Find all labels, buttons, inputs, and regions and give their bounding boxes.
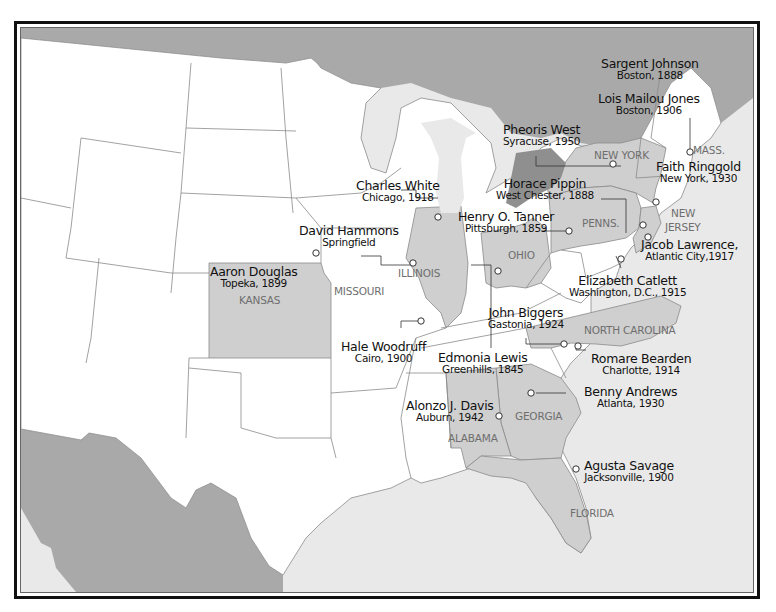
map-frame: NEW YORK MASS. PENNS. NEW JERSEY OHIO IL… <box>20 27 754 593</box>
state-label-new-jersey-2: JERSEY <box>665 222 701 233</box>
artist-birthplace: Syracuse, 1950 <box>503 136 580 147</box>
city-dot-syracuse <box>610 161 616 167</box>
artist-label-sargent-johnson: Sargent Johnson Boston, 1888 <box>601 57 699 81</box>
city-dot-west-chester <box>640 222 646 228</box>
state-label-ohio: OHIO <box>508 250 535 261</box>
state-label-florida: FLORIDA <box>570 508 614 519</box>
artist-label-alonzo-j-davis: Alonzo J. Davis Auburn, 1942 <box>406 399 494 423</box>
artist-birthplace: Auburn, 1942 <box>406 412 494 423</box>
artist-label-edmonia-lewis: Edmonia Lewis Greenhills, 1845 <box>438 351 527 375</box>
artist-label-hale-woodruff: Hale Woodruff Cairo, 1900 <box>341 340 426 364</box>
artist-label-pheoris-west: Pheoris West Syracuse, 1950 <box>503 123 580 147</box>
state-label-mass: MASS. <box>693 145 725 156</box>
artist-birthplace: Pittsburgh, 1859 <box>458 223 554 234</box>
city-dot-new-york <box>653 199 659 205</box>
city-dot-greenhills <box>495 268 501 274</box>
artist-label-lois-mailou-jones: Lois Mailou Jones Boston, 1906 <box>598 92 700 116</box>
artist-birthplace: Boston, 1906 <box>598 105 700 116</box>
artist-label-faith-ringgold: Faith Ringgold New York, 1930 <box>656 160 741 184</box>
artist-birthplace: Gastonia, 1924 <box>488 319 564 330</box>
artist-birthplace: Washington, D.C., 1915 <box>569 287 686 298</box>
artist-birthplace: Chicago, 1918 <box>356 192 440 203</box>
city-dot-springfield <box>410 260 416 266</box>
artist-birthplace: Greenhills, 1845 <box>438 364 527 375</box>
artist-label-agusta-savage: Agusta Savage Jacksonville, 1900 <box>584 459 674 483</box>
artist-label-horace-pippin: Horace Pippin West Chester, 1888 <box>496 177 594 201</box>
city-dot-auburn <box>496 413 502 419</box>
artist-label-charles-white: Charles White Chicago, 1918 <box>356 179 440 203</box>
artist-label-elizabeth-catlett: Elizabeth Catlett Washington, D.C., 1915 <box>569 274 686 298</box>
state-label-missouri: MISSOURI <box>334 286 384 297</box>
city-dot-pittsburgh <box>566 228 572 234</box>
state-label-kansas: KANSAS <box>239 295 280 306</box>
city-dot-atlanta <box>528 390 534 396</box>
artist-birthplace: New York, 1930 <box>656 173 741 184</box>
artist-label-jacob-lawrence: Jacob Lawrence, Atlantic City,1917 <box>641 238 738 262</box>
state-label-georgia: GEORGIA <box>515 411 562 422</box>
artist-birthplace: Atlantic City,1917 <box>641 251 738 262</box>
state-label-alabama: ALABAMA <box>448 433 498 444</box>
artist-label-aaron-douglas: Aaron Douglas Topeka, 1899 <box>210 265 298 289</box>
artist-label-john-biggers: John Biggers Gastonia, 1924 <box>488 306 564 330</box>
state-label-new-jersey-1: NEW <box>671 208 695 219</box>
state-label-new-york: NEW YORK <box>594 150 649 161</box>
city-dot-cairo <box>418 318 424 324</box>
state-label-penns: PENNS. <box>582 218 619 229</box>
artist-birthplace: Springfield <box>299 237 399 248</box>
artist-label-benny-andrews: Benny Andrews Atlanta, 1930 <box>584 385 677 409</box>
city-dot-chicago <box>435 214 441 220</box>
state-label-illinois: ILLINOIS <box>398 268 440 279</box>
city-dot-washington <box>618 256 624 262</box>
city-dot-gastonia <box>561 341 567 347</box>
city-dot-jacksonville <box>573 466 579 472</box>
artist-label-david-hammons: David Hammons Springfield <box>299 224 399 248</box>
city-dot-charlotte <box>575 343 581 349</box>
artist-birthplace: Jacksonville, 1900 <box>584 472 674 483</box>
artist-label-henry-o-tanner: Henry O. Tanner Pittsburgh, 1859 <box>458 210 554 234</box>
state-label-north-carolina: NORTH CAROLINA <box>584 325 676 336</box>
artist-birthplace: West Chester, 1888 <box>496 190 594 201</box>
artist-label-romare-bearden: Romare Bearden Charlotte, 1914 <box>591 352 691 376</box>
artist-birthplace: Charlotte, 1914 <box>591 365 691 376</box>
artist-birthplace: Atlanta, 1930 <box>584 398 677 409</box>
artist-birthplace: Topeka, 1899 <box>210 278 298 289</box>
artist-birthplace: Cairo, 1900 <box>341 353 426 364</box>
city-dot-topeka <box>313 250 319 256</box>
artist-birthplace: Boston, 1888 <box>601 70 699 81</box>
